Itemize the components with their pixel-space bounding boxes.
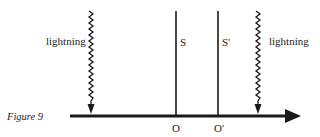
lightning-label-right: lightning [269, 36, 309, 47]
axis-arrow [70, 109, 301, 123]
label-S-prime: S' [222, 37, 230, 48]
label-O: O [172, 123, 180, 134]
lightning-bolt-right-icon [255, 11, 262, 114]
diagram-canvas [0, 0, 320, 137]
figure-caption: Figure 9 [7, 112, 43, 123]
label-S: S [180, 37, 186, 48]
label-O-prime: O' [214, 123, 224, 134]
lightning-bolt-left-icon [88, 11, 95, 114]
lightning-label-left: lightning [46, 36, 86, 47]
